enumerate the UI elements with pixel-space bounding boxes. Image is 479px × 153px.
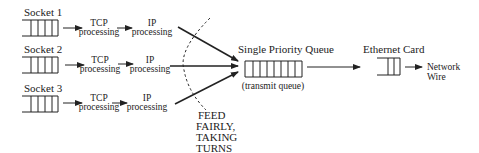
socket-2-queue — [22, 57, 58, 73]
ip-sub-label: processing — [130, 64, 171, 74]
socket-2-row: Socket 2 TCP processing IP processing — [22, 43, 171, 74]
socket-1-label: Socket 1 — [24, 6, 62, 18]
socket-1-row: Socket 1 TCP processing IP processing — [22, 6, 173, 37]
network-diagram: Socket 1 TCP processing IP processing So… — [0, 0, 479, 153]
socket-3-row: Socket 3 TCP processing IP processing — [22, 82, 168, 112]
ethernet-card: Ethernet Card — [363, 43, 425, 75]
socket-2-label: Socket 2 — [24, 43, 62, 55]
queue-title: Single Priority Queue — [238, 43, 334, 55]
socket-1-queue — [22, 20, 58, 36]
network-wire-label-2: Wire — [427, 72, 446, 82]
ip-sub-label: processing — [132, 27, 173, 37]
network-wire-label-1: Network — [427, 62, 460, 72]
tcp-sub-label: processing — [79, 27, 120, 37]
merge-arrow-icon — [178, 27, 238, 61]
merge-arrow-icon — [175, 72, 238, 104]
socket-3-label: Socket 3 — [24, 82, 63, 94]
ip-sub-label: processing — [127, 102, 168, 112]
tcp-sub-label: processing — [80, 64, 121, 74]
socket-3-queue — [22, 96, 58, 112]
fairness-note-line-4: TURNS — [196, 142, 232, 153]
queue-subtitle: (transmit queue) — [242, 81, 305, 92]
ethernet-card-title: Ethernet Card — [363, 43, 425, 55]
